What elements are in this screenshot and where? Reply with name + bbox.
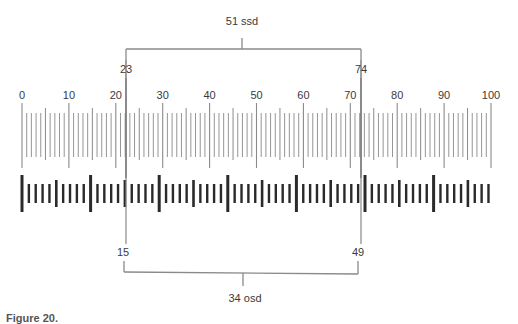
osd-bracket (124, 272, 358, 274)
upper-tick-label: 70 (344, 89, 356, 101)
upper-tick-label: 30 (157, 89, 169, 101)
upper-tick-label: 0 (19, 89, 25, 101)
upper-tick-label: 50 (250, 89, 262, 101)
osd-label: 34 osd (228, 292, 261, 304)
upper-marker-left-label: 23 (120, 63, 132, 75)
upper-tick-label: 100 (482, 89, 500, 101)
upper-marker-right-label: 74 (355, 63, 367, 75)
upper-tick-label: 60 (297, 89, 309, 101)
upper-tick-label: 20 (110, 89, 122, 101)
ssd-label: 51 ssd (226, 15, 258, 27)
upper-tick-label: 40 (203, 89, 215, 101)
lower-marker-left-label: 15 (117, 246, 129, 258)
upper-tick-label: 80 (391, 89, 403, 101)
figure-caption: Figure 20. (6, 312, 58, 324)
upper-tick-label: 10 (63, 89, 75, 101)
upper-tick-label: 90 (438, 89, 450, 101)
lower-marker-right-label: 49 (352, 246, 364, 258)
